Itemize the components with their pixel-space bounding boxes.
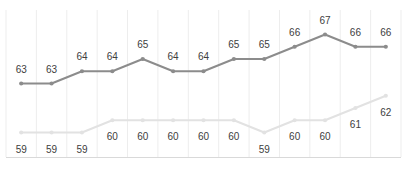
data-point-marker[interactable]	[80, 130, 84, 134]
data-point-marker[interactable]	[384, 45, 388, 49]
data-point-marker[interactable]	[141, 57, 145, 61]
data-point-marker[interactable]	[232, 57, 236, 61]
data-label: 65	[253, 39, 275, 50]
data-point-marker[interactable]	[262, 130, 266, 134]
data-point-marker[interactable]	[19, 130, 23, 134]
data-label: 66	[284, 27, 306, 38]
data-point-marker[interactable]	[323, 118, 327, 122]
data-label: 60	[132, 131, 154, 142]
data-label: 66	[375, 27, 397, 38]
data-point-marker[interactable]	[19, 81, 23, 85]
data-label: 60	[314, 131, 336, 142]
data-label: 66	[344, 27, 366, 38]
data-label: 64	[71, 51, 93, 62]
data-label: 62	[375, 107, 397, 118]
data-point-marker[interactable]	[353, 106, 357, 110]
data-label: 59	[41, 144, 63, 155]
lower-series-path	[21, 96, 386, 133]
line-chart: 5959596060606060596060616263636464656464…	[0, 0, 407, 169]
data-label: 60	[223, 131, 245, 142]
data-label: 65	[132, 39, 154, 50]
data-point-marker[interactable]	[141, 118, 145, 122]
data-label: 65	[223, 39, 245, 50]
data-label: 59	[10, 144, 32, 155]
data-point-marker[interactable]	[201, 118, 205, 122]
data-label: 63	[10, 64, 32, 75]
data-point-marker[interactable]	[232, 118, 236, 122]
data-label: 60	[284, 131, 306, 142]
data-label: 64	[193, 51, 215, 62]
data-point-marker[interactable]	[323, 32, 327, 36]
data-point-marker[interactable]	[110, 118, 114, 122]
data-point-marker[interactable]	[353, 45, 357, 49]
data-point-marker[interactable]	[262, 57, 266, 61]
data-label: 59	[253, 144, 275, 155]
data-point-marker[interactable]	[110, 69, 114, 73]
data-label: 60	[101, 131, 123, 142]
lower-series-line	[19, 94, 388, 135]
data-point-marker[interactable]	[171, 118, 175, 122]
data-label: 63	[41, 64, 63, 75]
data-label: 61	[344, 119, 366, 130]
data-label: 60	[162, 131, 184, 142]
data-label: 67	[314, 15, 336, 26]
data-point-marker[interactable]	[80, 69, 84, 73]
data-point-marker[interactable]	[293, 118, 297, 122]
data-label: 64	[162, 51, 184, 62]
data-point-marker[interactable]	[49, 81, 53, 85]
data-label: 64	[101, 51, 123, 62]
data-point-marker[interactable]	[49, 130, 53, 134]
data-label: 59	[71, 144, 93, 155]
data-label: 60	[193, 131, 215, 142]
data-point-marker[interactable]	[201, 69, 205, 73]
data-point-marker[interactable]	[384, 94, 388, 98]
data-point-marker[interactable]	[171, 69, 175, 73]
data-point-marker[interactable]	[293, 45, 297, 49]
